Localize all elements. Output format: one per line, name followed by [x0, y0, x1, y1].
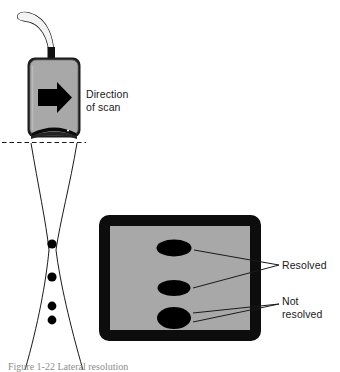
target-3: [48, 302, 57, 311]
transducer-cable: [18, 12, 54, 51]
beam-profile: [25, 143, 83, 370]
target-1: [47, 239, 56, 248]
cable-connector: [48, 47, 56, 59]
target-4: [48, 316, 57, 325]
figure-caption: Figure 1-22 Lateral resolution: [8, 361, 338, 372]
direction-of-scan-label: Direction of scan: [86, 88, 128, 113]
display-echoes: [157, 240, 192, 330]
not-resolved-label: Not resolved: [282, 295, 323, 320]
display-echo-2: [158, 280, 191, 296]
target-2: [47, 272, 56, 281]
display-echo-1: [157, 240, 192, 257]
display-echo-3: [157, 307, 191, 329]
resolved-label: Resolved: [282, 259, 327, 272]
